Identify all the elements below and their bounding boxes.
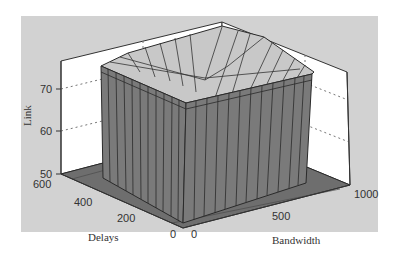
y-tick-600: 600 [33, 178, 51, 190]
z-axis: 50 60 70 Link [21, 83, 61, 180]
y-tick-400: 400 [74, 196, 92, 208]
x-tick-1000: 1000 [354, 188, 378, 200]
figure: 50 60 70 Link 600 400 200 0 Delays 0 500… [0, 0, 398, 265]
z-axis-label: Link [21, 105, 33, 126]
z-tick-70: 70 [40, 83, 52, 95]
surface-plot: 50 60 70 Link 600 400 200 0 Delays 0 500… [0, 0, 398, 265]
x-axis-label: Bandwidth [272, 234, 321, 246]
y-tick-200: 200 [117, 212, 135, 224]
x-tick-0: 0 [191, 228, 197, 240]
y-axis-label: Delays [88, 231, 119, 243]
y-tick-0: 0 [170, 228, 176, 240]
z-tick-60: 60 [40, 125, 52, 137]
x-tick-500: 500 [272, 210, 290, 222]
